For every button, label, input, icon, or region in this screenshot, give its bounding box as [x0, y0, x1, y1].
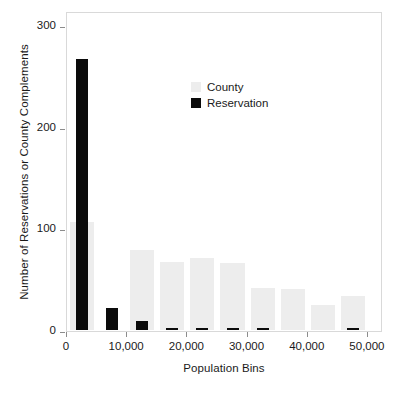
y-tick-mark — [60, 332, 65, 333]
x-tick-label: 50,000 — [327, 340, 399, 352]
legend-label: County — [207, 81, 243, 93]
bar-county-15000-20000 — [160, 262, 184, 330]
legend-swatch-res — [191, 98, 201, 108]
bar-county-10000-15000 — [130, 250, 154, 330]
legend-item-res: Reservation — [191, 96, 268, 110]
bar-county-20000-25000 — [190, 258, 214, 330]
legend-swatch-county — [191, 82, 201, 92]
x-tick-mark — [307, 332, 308, 337]
bar-reservation-20000-25000 — [196, 328, 208, 330]
y-tick-label: 100 — [10, 222, 56, 234]
y-tick-100: 100 — [0, 230, 66, 231]
y-tick-mark — [60, 27, 65, 28]
y-tick-0: 0 — [0, 332, 66, 333]
x-tick-mark — [66, 332, 67, 337]
bar-county-35000-40000 — [281, 289, 305, 330]
x-tick-mark — [247, 332, 248, 337]
y-axis-label: Number of Reservations or County Complem… — [18, 12, 36, 332]
x-tick-mark — [186, 332, 187, 337]
y-tick-mark — [60, 230, 65, 231]
y-tick-label: 0 — [10, 324, 56, 336]
y-tick-mark — [60, 129, 65, 130]
y-tick-label: 300 — [10, 19, 56, 31]
x-tick-mark — [126, 332, 127, 337]
bar-reservation-0-5000 — [76, 59, 88, 330]
plot-area — [66, 12, 382, 332]
bar-reservation-15000-20000 — [166, 328, 178, 330]
bar-reservation-30000-35000 — [257, 328, 269, 330]
legend-item-county: County — [191, 80, 268, 94]
bar-county-40000-45000 — [311, 305, 335, 330]
y-tick-200: 200 — [0, 129, 66, 130]
bar-county-25000-30000 — [220, 263, 244, 330]
y-tick-300: 300 — [0, 27, 66, 28]
bar-chart-figure: Number of Reservations or County Complem… — [0, 0, 399, 397]
bar-group — [67, 13, 381, 331]
x-axis-label: Population Bins — [66, 362, 382, 374]
legend-label: Reservation — [207, 97, 268, 109]
bar-reservation-5000-10000 — [106, 308, 118, 330]
bar-reservation-10000-15000 — [136, 321, 148, 330]
chart-legend: CountyReservation — [191, 80, 268, 112]
bar-reservation-45000-50000 — [347, 328, 359, 330]
x-tick-mark — [367, 332, 368, 337]
bar-county-45000-50000 — [341, 296, 365, 330]
bar-reservation-25000-30000 — [227, 328, 239, 330]
y-tick-label: 200 — [10, 121, 56, 133]
bar-county-30000-35000 — [251, 288, 275, 330]
